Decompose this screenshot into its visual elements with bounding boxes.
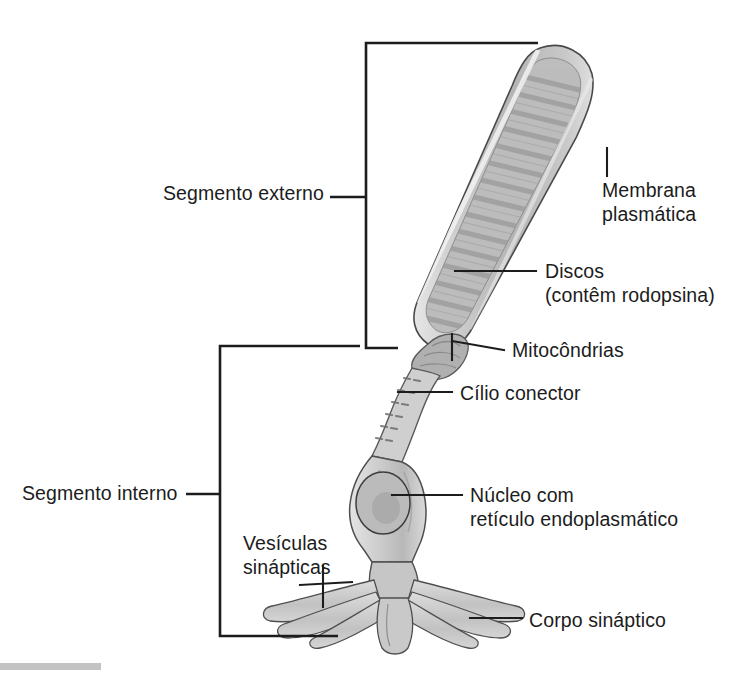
callout-label-mitocondrias: Mitocôndrias [512, 338, 624, 362]
diagram-illustration [0, 0, 749, 676]
bracket-label-segmento-interno: Segmento interno [22, 481, 178, 505]
connecting-cilium [372, 368, 440, 462]
callout-label-cilio-conector: Cílio conector [460, 381, 581, 405]
leader-vesiculas [300, 582, 352, 585]
rod-photoreceptor-diagram: Segmento externo Segmento interno Membra… [0, 0, 749, 676]
scan-edge-artifact [0, 663, 101, 670]
bracket-label-segmento-externo: Segmento externo [163, 181, 324, 205]
callout-label-nucleo: Núcleo com retículo endoplasmático [470, 483, 678, 531]
callout-label-discos: Discos (contêm rodopsina) [545, 259, 715, 307]
callout-label-corpo-sinaptico: Corpo sináptico [529, 608, 666, 632]
callout-label-membrana-plasmatica: Membrana plasmática [602, 178, 696, 226]
inner-segment-cell-body [350, 456, 426, 562]
callout-label-vesiculas-sinapticas: Vesículas sinápticas [243, 531, 331, 579]
